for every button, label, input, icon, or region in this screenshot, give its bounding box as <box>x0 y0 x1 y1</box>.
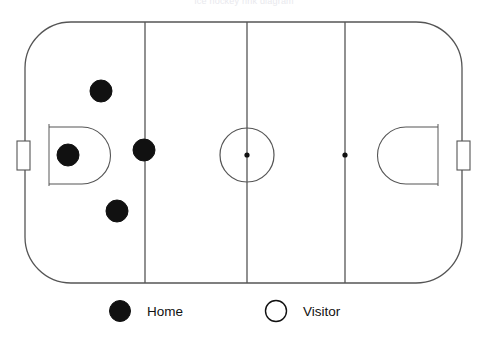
legend-home-label: Home <box>147 304 183 319</box>
left-net-icon <box>17 141 30 170</box>
center-faceoff-dot-icon <box>244 152 249 157</box>
figure-title: Ice hockey rink diagram <box>0 0 488 6</box>
rink-boundary <box>25 22 462 283</box>
home-player-2-marker[interactable] <box>57 144 79 166</box>
rink-svg: Home Visitor <box>0 0 488 341</box>
home-player-3-marker[interactable] <box>133 139 155 161</box>
home-player-4-marker[interactable] <box>106 200 128 222</box>
legend-visitor-marker-icon <box>266 301 287 322</box>
hockey-rink-figure: Ice hockey rink diagram Home Visitor <box>0 0 488 341</box>
home-player-1-marker[interactable] <box>90 80 112 102</box>
legend-home-marker-icon <box>110 301 131 322</box>
right-faceoff-dot-icon <box>342 152 347 157</box>
right-net-icon <box>457 141 470 170</box>
legend-visitor-label: Visitor <box>303 304 341 319</box>
